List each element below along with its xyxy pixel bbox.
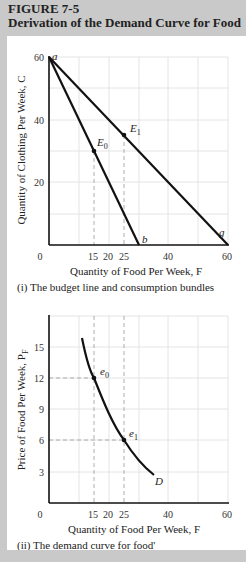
panel-i-y-label: Quantity of Clothing Per Week, C [15, 75, 27, 224]
svg-text:9: 9 [39, 404, 44, 415]
svg-text:12: 12 [34, 373, 44, 384]
figure-panel: a b g E0 E1 60 40 20 0 15 20 25 40 60 Qu… [7, 36, 246, 550]
point-e0 [92, 376, 97, 381]
panel-ii-grid [49, 316, 228, 503]
point-E1 [122, 133, 127, 138]
svg-text:20: 20 [103, 251, 113, 262]
svg-text:60: 60 [34, 52, 44, 63]
svg-text:60: 60 [222, 509, 232, 520]
svg-text:40: 40 [163, 251, 173, 262]
svg-text:15: 15 [88, 509, 98, 520]
svg-text:40: 40 [163, 509, 173, 520]
figure-number: FIGURE 7-5 [8, 2, 246, 16]
point-e1 [122, 438, 127, 443]
panel-ii-caption: (ii) The demand curve for food' [17, 539, 155, 550]
panel-ii-x-label: Quantity of Food Per Week, F [68, 523, 200, 535]
panel-i-caption: (i) The budget line and consumption bund… [17, 281, 214, 294]
svg-text:15: 15 [34, 342, 44, 353]
demand-curve-D [82, 338, 154, 475]
panel-ii-y-label: Price of Food Per Week, PF [15, 349, 30, 470]
panel-i-y-ticks: 60 40 20 [34, 52, 44, 188]
svg-text:25: 25 [119, 251, 129, 262]
svg-text:3: 3 [39, 467, 44, 478]
panel-ii-y-ticks: 15 12 9 6 3 [34, 342, 44, 478]
figure-header: FIGURE 7-5 Derivation of the Demand Curv… [8, 2, 246, 30]
charts-svg: a b g E0 E1 60 40 20 0 15 20 25 40 60 Qu… [7, 36, 246, 550]
svg-text:40: 40 [34, 115, 44, 126]
panel-ii-x-ticks: 0 15 20 25 40 60 [38, 509, 233, 520]
label-E0: E0 [96, 136, 108, 151]
label-b: b [142, 233, 148, 245]
svg-text:25: 25 [119, 509, 129, 520]
label-g: g [219, 226, 225, 238]
svg-text:6: 6 [39, 435, 44, 446]
svg-text:0: 0 [38, 251, 43, 262]
point-E0 [92, 149, 97, 154]
svg-text:20: 20 [103, 509, 113, 520]
svg-text:60: 60 [222, 251, 232, 262]
label-D: D [154, 475, 163, 487]
svg-text:20: 20 [34, 177, 44, 188]
figure-title: Derivation of the Demand Curve for Food [8, 16, 246, 30]
panel-i-x-ticks: 0 15 20 25 40 60 [38, 251, 233, 262]
panel-ii-chart: e0 e1 D 15 12 9 6 3 0 15 20 25 40 60 Qua… [15, 315, 232, 550]
svg-text:15: 15 [88, 251, 98, 262]
label-a: a [52, 50, 58, 62]
panel-i-chart: a b g E0 E1 60 40 20 0 15 20 25 40 60 Qu… [15, 50, 232, 294]
svg-text:0: 0 [38, 509, 43, 520]
panel-i-x-label: Quantity of Food Per Week, F [70, 265, 202, 277]
